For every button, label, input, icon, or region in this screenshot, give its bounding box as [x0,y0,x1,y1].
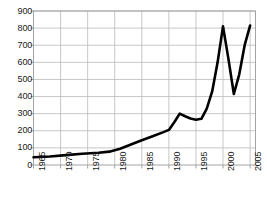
x-axis-tick-labels: 196519701975198019851990199520002005 [0,0,267,206]
x-tick-label: 1965 [38,152,47,171]
x-tick-label: 1975 [92,152,101,171]
x-tick-label: 1995 [200,152,209,171]
line-chart: 0100200300400500600700800900 19651970197… [0,0,267,206]
x-tick-label: 1990 [173,152,182,171]
x-tick-label: 1970 [65,152,74,171]
x-tick-label: 1985 [146,152,155,171]
x-tick-label: 1980 [119,152,128,171]
x-tick-label: 2005 [254,152,263,171]
x-tick-label: 2000 [227,152,236,171]
